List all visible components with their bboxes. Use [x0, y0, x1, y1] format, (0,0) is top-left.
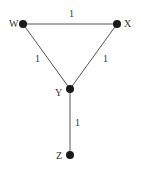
edge-x-y — [70, 24, 117, 89]
node-w — [19, 20, 27, 28]
edge-weight-label: 1 — [35, 53, 40, 64]
graph-diagram: 1111WXYZ — [0, 0, 141, 170]
node-x — [113, 20, 121, 28]
node-z — [66, 151, 74, 159]
edge-weight-label: 1 — [103, 53, 108, 64]
node-label: Y — [55, 87, 62, 98]
edge-w-y — [23, 24, 70, 89]
edge-weight-label: 1 — [69, 8, 74, 19]
node-label: W — [9, 18, 19, 29]
node-label: Z — [56, 150, 62, 161]
node-y — [66, 85, 74, 93]
node-label: X — [124, 18, 132, 29]
edge-weight-label: 1 — [75, 117, 80, 128]
